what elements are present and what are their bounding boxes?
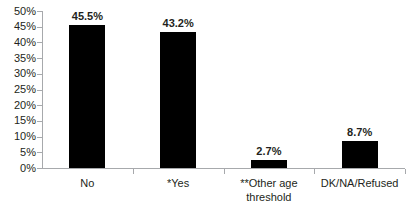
bar-chart: 0%5%10%15%20%25%30%35%40%45%50% 45.5%43.… bbox=[0, 0, 409, 212]
y-axis: 0%5%10%15%20%25%30%35%40%45%50% bbox=[0, 0, 36, 212]
y-axis-tick-mark bbox=[37, 27, 42, 28]
y-axis-tick-mark bbox=[37, 42, 42, 43]
bar[interactable] bbox=[251, 160, 287, 168]
y-axis-tick-label: 15% bbox=[0, 115, 36, 126]
y-axis-tick-label: 0% bbox=[0, 163, 36, 174]
y-axis-tick-mark bbox=[37, 11, 42, 12]
y-axis-tick-label: 5% bbox=[0, 147, 36, 158]
y-axis-tick-label: 25% bbox=[0, 84, 36, 95]
y-axis-tick-mark bbox=[37, 90, 42, 91]
x-axis-category-label-line: No bbox=[42, 176, 133, 190]
bar-value-label: 8.7% bbox=[347, 127, 372, 138]
y-axis-tick-label: 45% bbox=[0, 21, 36, 32]
bar-group: 2.7% bbox=[224, 11, 315, 168]
bar-group: 45.5% bbox=[42, 11, 133, 168]
x-axis-category-labels: No*Yes**Other agethresholdDK/NA/Refused bbox=[42, 176, 405, 212]
x-axis-tick-mark bbox=[314, 169, 315, 174]
bar-value-label: 43.2% bbox=[163, 18, 194, 29]
bar-group: 8.7% bbox=[314, 11, 405, 168]
bar-value-label: 2.7% bbox=[256, 146, 281, 157]
y-axis-tick-mark bbox=[37, 137, 42, 138]
bar[interactable] bbox=[69, 25, 105, 168]
plot-area: 45.5%43.2%2.7%8.7% bbox=[42, 11, 405, 168]
y-axis-tick-label: 50% bbox=[0, 6, 36, 17]
x-axis-tick-mark bbox=[405, 169, 406, 174]
x-axis-category-label: DK/NA/Refused bbox=[314, 176, 405, 190]
bar-group: 43.2% bbox=[133, 11, 224, 168]
y-axis-tick-mark bbox=[37, 152, 42, 153]
x-axis-category-label: **Other agethreshold bbox=[224, 176, 315, 204]
bar-value-label: 45.5% bbox=[72, 11, 103, 22]
y-axis-tick-mark bbox=[37, 74, 42, 75]
y-axis-tick-mark bbox=[37, 168, 42, 169]
x-axis-category-label-line: *Yes bbox=[133, 176, 224, 190]
x-axis-category-label: No bbox=[42, 176, 133, 190]
y-axis-tick-label: 30% bbox=[0, 68, 36, 79]
x-axis-tick-mark bbox=[133, 169, 134, 174]
x-axis-category-label-line: threshold bbox=[224, 190, 315, 204]
y-axis-tick-label: 20% bbox=[0, 100, 36, 111]
bar[interactable] bbox=[342, 141, 378, 168]
x-axis-tick-mark bbox=[224, 169, 225, 174]
y-axis-tick-label: 40% bbox=[0, 37, 36, 48]
y-axis-tick-mark bbox=[37, 121, 42, 122]
x-axis-category-label-line: **Other age bbox=[224, 176, 315, 190]
y-axis-tick-label: 35% bbox=[0, 53, 36, 64]
bar[interactable] bbox=[160, 32, 196, 168]
y-axis-tick-mark bbox=[37, 58, 42, 59]
x-axis-category-label: *Yes bbox=[133, 176, 224, 190]
y-axis-tick-mark bbox=[37, 105, 42, 106]
y-axis-tick-label: 10% bbox=[0, 131, 36, 142]
x-axis-category-label-line: DK/NA/Refused bbox=[314, 176, 405, 190]
